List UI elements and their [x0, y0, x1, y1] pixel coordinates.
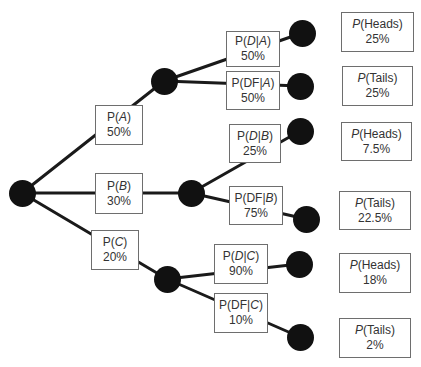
node-a [151, 68, 178, 95]
cond-prob-box-df-a: P(DF|A) 50% [226, 71, 280, 110]
prob-value: 50% [107, 125, 131, 140]
prob-value: 25% [243, 144, 267, 159]
prob-value: 50% [241, 91, 265, 106]
root-node [9, 180, 36, 207]
node-c [154, 266, 181, 293]
prob-box-b: P(B) 30% [95, 173, 143, 214]
prob-label: P(C) [103, 235, 128, 250]
cond-prob-box-df-c: P(DF|C) 10% [214, 293, 268, 333]
outcome-box-2: P(Tails) 25% [342, 66, 413, 106]
leaf-node-d-a [289, 20, 316, 47]
outcome-label: P(Heads) [350, 258, 401, 273]
leaf-node-d-c [286, 251, 313, 278]
outcome-label: P(Heads) [352, 17, 403, 32]
outcome-box-4: P(Tails) 22.5% [339, 191, 411, 230]
cond-prob-box-d-c: P(D|C) 90% [214, 244, 268, 284]
prob-label: P(D|C) [223, 249, 259, 264]
prob-box-c: P(C) 20% [91, 230, 139, 270]
prob-value: 75% [244, 206, 268, 221]
outcome-value: 25% [365, 86, 389, 101]
prob-value: 50% [241, 49, 265, 64]
cond-prob-box-df-b: P(DF|B) 75% [229, 186, 283, 225]
outcome-value: 25% [365, 32, 389, 47]
outcome-box-6: P(Tails) 2% [339, 318, 411, 358]
tree-edges [0, 0, 421, 367]
prob-value: 90% [229, 264, 253, 279]
outcome-box-3: P(Heads) 7.5% [341, 122, 412, 161]
outcome-value: 22.5% [358, 211, 392, 226]
prob-label: P(DF|C) [219, 298, 263, 313]
outcome-box-5: P(Heads) 18% [339, 253, 411, 293]
node-b [178, 180, 205, 207]
prob-label: P(B) [107, 179, 131, 194]
prob-label: P(DF|A) [231, 76, 274, 91]
outcome-value: 18% [363, 273, 387, 288]
prob-value: 10% [229, 313, 253, 328]
outcome-value: 7.5% [363, 142, 390, 157]
leaf-node-df-c [287, 324, 314, 351]
prob-label: P(DF|B) [234, 191, 277, 206]
leaf-node-df-b [293, 206, 320, 233]
outcome-box-1: P(Heads) 25% [341, 12, 414, 52]
leaf-node-d-b [287, 118, 314, 145]
cond-prob-box-d-b: P(D|B) 25% [229, 124, 281, 163]
outcome-label: P(Heads) [351, 127, 402, 142]
outcome-label: P(Tails) [355, 196, 395, 211]
prob-box-a: P(A) 50% [95, 105, 143, 145]
prob-value: 20% [103, 250, 127, 265]
prob-value: 30% [107, 194, 131, 209]
prob-label: P(A) [107, 110, 131, 125]
leaf-node-df-a [287, 73, 314, 100]
cond-prob-box-d-a: P(D|A) 50% [226, 31, 280, 67]
prob-label: P(D|A) [235, 34, 271, 49]
outcome-value: 2% [366, 338, 383, 353]
prob-label: P(D|B) [237, 129, 273, 144]
outcome-label: P(Tails) [357, 71, 397, 86]
outcome-label: P(Tails) [355, 323, 395, 338]
